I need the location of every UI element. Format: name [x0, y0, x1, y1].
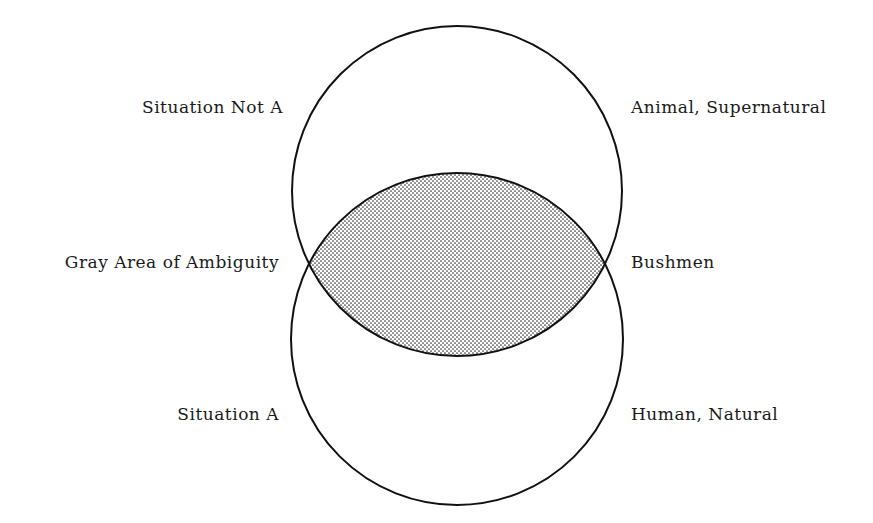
label-gray-area: Gray Area of Ambiguity [65, 252, 279, 272]
label-situation-a: Situation A [177, 404, 279, 424]
label-situation-not-a: Situation Not A [142, 97, 283, 117]
label-human-natural: Human, Natural [631, 404, 778, 424]
label-animal-supernatural: Animal, Supernatural [631, 97, 826, 117]
overlap-region [291, 173, 623, 505]
label-bushmen: Bushmen [631, 252, 715, 272]
